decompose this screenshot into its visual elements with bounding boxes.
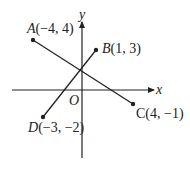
point-a-label: A(−4, 4) (26, 21, 74, 37)
point-d (41, 115, 45, 119)
point-c (131, 102, 135, 106)
point-b (94, 48, 98, 52)
x-axis-label: x (155, 82, 163, 97)
point-b-label: B(1, 3) (102, 41, 141, 57)
y-axis-label: y (77, 7, 86, 22)
coordinate-diagram: y x O A(−4, 4) B(1, 3) C(4, −1) D(−3, −2… (0, 0, 190, 169)
point-a (31, 38, 35, 42)
origin-label: O (69, 93, 79, 108)
point-d-label: D(−3, −2) (27, 120, 85, 136)
point-c-label: C(4, −1) (136, 106, 184, 122)
